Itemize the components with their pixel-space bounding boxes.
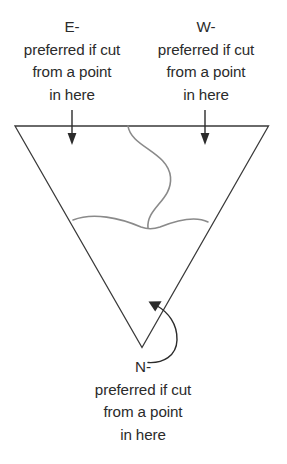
label-north-line1: preferred if cut	[71, 379, 215, 402]
label-west-line1: preferred if cut	[134, 39, 278, 62]
diagram-canvas: E- preferred if cut from a point in here…	[0, 0, 287, 464]
north-region-divider-curve	[73, 216, 208, 229]
label-west-region: W- preferred if cut from a point in here	[134, 16, 278, 106]
label-east-line2: from a point	[0, 61, 144, 84]
east-down-arrow	[68, 110, 77, 145]
north-curved-arrow	[148, 301, 177, 362]
label-east-region: E- preferred if cut from a point in here	[0, 16, 144, 106]
label-east-heading: E-	[0, 16, 144, 39]
label-north-region: N- preferred if cut from a point in here	[71, 356, 215, 446]
label-west-heading: W-	[134, 16, 278, 39]
label-east-line3: in here	[0, 84, 144, 107]
label-west-line3: in here	[134, 84, 278, 107]
label-west-line2: from a point	[134, 61, 278, 84]
label-north-line3: in here	[71, 424, 215, 447]
label-north-heading: N-	[71, 356, 215, 379]
west-down-arrow	[201, 110, 210, 145]
label-east-line1: preferred if cut	[0, 39, 144, 62]
inverted-triangle-outline	[15, 126, 269, 348]
label-north-line2: from a point	[71, 401, 215, 424]
east-west-divider-curve	[128, 126, 171, 228]
